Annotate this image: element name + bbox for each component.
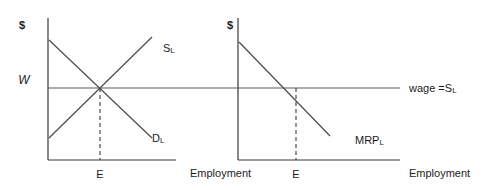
right-y-axis-label: $ bbox=[227, 19, 233, 31]
mrpl-curve bbox=[239, 42, 330, 136]
wage-supply-line-label: wage =SL bbox=[408, 82, 457, 95]
mrpl-curve-label: MRPL bbox=[355, 134, 384, 147]
supply-curve-label-sub: L bbox=[170, 46, 175, 55]
left-x-axis-label: Employment bbox=[190, 167, 251, 179]
wage-supply-line-label-main: wage =S bbox=[408, 82, 452, 94]
right-equilibrium-label: E bbox=[292, 168, 299, 180]
mrpl-curve-label-sub: L bbox=[379, 138, 384, 147]
supply-curve-label: SL bbox=[163, 42, 175, 55]
supply-curve-label-main: S bbox=[163, 42, 170, 54]
figure-root: $ W SL DL E Employment $ wage =SL MRPL E… bbox=[0, 0, 486, 190]
left-equilibrium-label: E bbox=[96, 168, 103, 180]
left-chart-group bbox=[48, 18, 400, 160]
mrpl-curve-label-main: MRP bbox=[355, 134, 379, 146]
wage-supply-line-label-sub: L bbox=[452, 86, 457, 95]
demand-curve-label: DL bbox=[152, 132, 165, 145]
wage-label: W bbox=[18, 73, 31, 87]
left-y-axis-label: $ bbox=[19, 19, 25, 31]
right-x-axis-label: Employment bbox=[409, 167, 470, 179]
labor-market-diagram: $ W SL DL E Employment $ wage =SL MRPL E… bbox=[0, 0, 486, 190]
demand-curve-label-main: D bbox=[152, 132, 160, 144]
demand-curve-label-sub: L bbox=[160, 136, 165, 145]
